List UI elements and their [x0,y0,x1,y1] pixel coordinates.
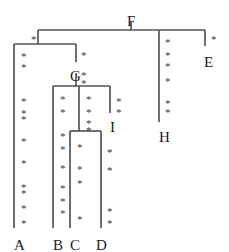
change-mark: * [81,78,87,89]
change-mark: * [21,158,27,169]
change-mark: * [107,165,113,176]
change-mark: * [60,196,66,207]
change-mark: * [21,62,27,73]
taxon-label-C: C [70,238,80,252]
change-mark: * [21,114,27,125]
change-mark: * [165,37,171,48]
change-mark: * [60,94,66,105]
change-mark: * [60,144,66,155]
change-mark: * [31,34,37,45]
change-mark: * [21,188,27,199]
node-label-I: I [110,120,115,135]
node-label-F: F [127,14,135,29]
change-mark: * [165,107,171,118]
change-mark: * [81,50,87,61]
change-mark: * [60,107,66,118]
node-label-E: E [204,55,213,70]
change-mark: * [60,183,66,194]
change-mark: * [165,76,171,87]
change-mark: * [77,178,83,189]
change-mark: * [21,96,27,107]
change-mark: * [86,94,92,105]
change-mark: * [211,34,217,45]
change-mark: * [77,164,83,175]
change-mark: * [77,142,83,153]
taxon-label-A: A [14,238,25,252]
change-mark: * [165,61,171,72]
taxon-label-B: B [53,238,63,252]
change-mark: * [21,218,27,229]
change-mark: * [77,214,83,225]
cladogram-figure: ****************************************… [0,0,229,252]
change-mark: * [60,208,66,219]
change-mark: * [86,125,92,136]
change-mark: * [107,147,113,158]
node-label-G: G [70,69,81,84]
change-mark: * [107,218,113,229]
change-mark: * [107,206,113,217]
change-mark: * [60,163,66,174]
change-mark: * [60,131,66,142]
change-mark: * [116,107,122,118]
change-mark: * [21,136,27,147]
taxon-label-D: D [96,238,107,252]
change-mark: * [21,203,27,214]
node-label-H: H [159,130,170,145]
